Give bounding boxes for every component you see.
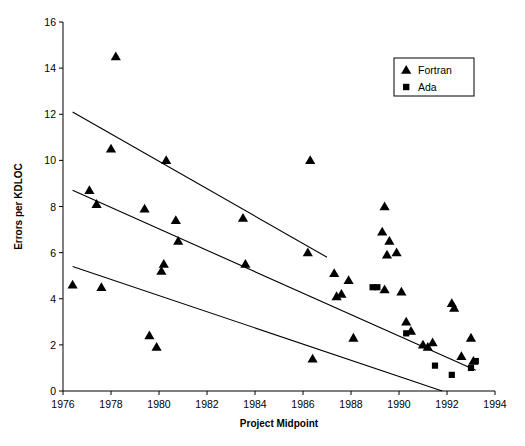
x-tick-label: 1990 xyxy=(387,398,411,410)
data-point-triangle xyxy=(466,333,476,342)
y-tick-label: 2 xyxy=(50,339,56,351)
legend-marker-square xyxy=(403,84,409,90)
data-point-square xyxy=(473,358,479,364)
data-point-triangle xyxy=(144,331,154,340)
x-tick-label: 1992 xyxy=(435,398,459,410)
y-tick-label: 4 xyxy=(50,293,56,305)
trend-line-lower xyxy=(73,266,443,391)
y-tick-label: 8 xyxy=(50,201,56,213)
x-tick-label: 1988 xyxy=(339,398,363,410)
trend-line-upper xyxy=(73,112,327,257)
data-point-triangle xyxy=(428,337,438,346)
data-point-square xyxy=(449,372,455,378)
data-point-triangle xyxy=(305,155,315,164)
data-point-triangle xyxy=(401,317,411,326)
data-point-square xyxy=(403,330,409,336)
y-tick-label: 6 xyxy=(50,247,56,259)
x-tick-label: 1982 xyxy=(195,398,219,410)
data-point-square xyxy=(468,365,474,371)
data-point-triangle xyxy=(240,259,250,268)
data-point-triangle xyxy=(380,284,390,293)
data-point-triangle xyxy=(68,280,78,289)
chart-container: 0246810121416197619781980198219841986198… xyxy=(0,0,525,446)
data-point-square xyxy=(374,284,380,290)
data-point-triangle xyxy=(382,250,392,259)
x-tick-label: 1986 xyxy=(291,398,315,410)
data-point-triangle xyxy=(111,52,121,61)
y-axis-title: Errors per KDLOC xyxy=(13,163,24,250)
x-tick-label: 1994 xyxy=(483,398,507,410)
data-point-triangle xyxy=(96,282,106,291)
scatter-plot: 0246810121416197619781980198219841986198… xyxy=(0,0,525,446)
data-point-triangle xyxy=(84,185,94,194)
data-point-triangle xyxy=(152,342,162,351)
legend-label-ada: Ada xyxy=(418,81,437,93)
data-point-triangle xyxy=(456,351,466,360)
data-point-triangle xyxy=(344,275,354,284)
data-point-triangle xyxy=(336,289,346,298)
y-tick-label: 14 xyxy=(44,62,56,74)
x-tick-label: 1976 xyxy=(51,398,75,410)
data-point-triangle xyxy=(329,268,339,277)
data-point-triangle xyxy=(380,201,390,210)
x-tick-label: 1984 xyxy=(243,398,267,410)
data-point-triangle xyxy=(159,259,169,268)
data-point-triangle xyxy=(238,213,248,222)
data-point-square xyxy=(432,363,438,369)
data-point-triangle xyxy=(396,287,406,296)
y-tick-label: 0 xyxy=(50,385,56,397)
trend-line-middle xyxy=(73,190,476,370)
data-point-triangle xyxy=(106,144,116,153)
x-axis-title: Project Midpoint xyxy=(240,418,319,429)
data-point-triangle xyxy=(392,248,402,257)
series-fortran xyxy=(68,52,479,365)
data-point-triangle xyxy=(377,227,387,236)
data-point-triangle xyxy=(140,204,150,213)
x-tick-label: 1978 xyxy=(99,398,123,410)
legend-label-fortran: Fortran xyxy=(418,64,452,76)
data-point-triangle xyxy=(384,236,394,245)
data-point-triangle xyxy=(171,215,181,224)
y-tick-label: 12 xyxy=(44,108,56,120)
data-point-triangle xyxy=(348,333,358,342)
data-point-triangle xyxy=(308,354,318,363)
y-tick-label: 16 xyxy=(44,16,56,28)
data-point-triangle xyxy=(173,236,183,245)
data-point-triangle xyxy=(92,199,102,208)
data-point-triangle xyxy=(161,155,171,164)
x-tick-label: 1980 xyxy=(147,398,171,410)
legend: FortranAda xyxy=(394,58,474,96)
y-tick-label: 10 xyxy=(44,154,56,166)
